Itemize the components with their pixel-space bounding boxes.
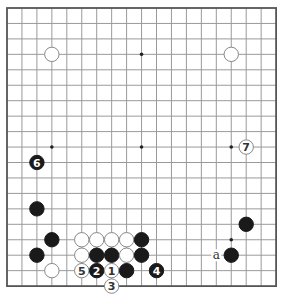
white-stone-icon	[75, 248, 89, 262]
white-stone	[45, 47, 59, 61]
point-mark-label: a	[213, 248, 220, 262]
black-stone-icon	[30, 248, 44, 262]
black-stone-move-4: 4	[149, 263, 163, 277]
move-number-label: 6	[33, 157, 41, 170]
black-stone-icon	[239, 217, 253, 231]
move-number-label: 3	[108, 280, 116, 293]
black-stone-icon	[119, 263, 133, 277]
black-stone	[119, 263, 133, 277]
white-stone-icon	[119, 233, 133, 247]
white-stone	[224, 47, 238, 61]
star-point-icon	[140, 53, 144, 57]
black-stone-icon	[90, 248, 104, 262]
black-stone	[90, 248, 104, 262]
white-stone-icon	[75, 233, 89, 247]
black-stone-icon	[30, 202, 44, 216]
black-stone-move-2: 2	[90, 263, 104, 277]
white-stone-icon	[119, 248, 133, 262]
white-stone	[119, 233, 133, 247]
black-stone-move-6: 6	[30, 155, 44, 169]
white-stone	[75, 233, 89, 247]
black-stone	[224, 248, 238, 262]
star-point-icon	[229, 145, 233, 149]
black-stone	[30, 202, 44, 216]
white-stone-icon	[104, 233, 118, 247]
move-number-label: 2	[93, 265, 101, 278]
star-point-icon	[229, 238, 233, 242]
white-stone-move-1: 1	[104, 263, 118, 277]
move-number-label: 1	[108, 265, 116, 278]
go-board: 6752143 a	[0, 0, 282, 299]
black-stone	[134, 248, 148, 262]
white-stone-move-3: 3	[104, 279, 118, 293]
white-stone-icon	[45, 263, 59, 277]
black-stone-icon	[224, 248, 238, 262]
white-stone-icon	[224, 47, 238, 61]
move-number-label: 7	[242, 141, 250, 154]
white-stone-icon	[90, 233, 104, 247]
board-marks: a	[211, 248, 221, 262]
white-stone-icon	[45, 47, 59, 61]
black-stone	[30, 248, 44, 262]
white-stone-move-7: 7	[239, 140, 253, 154]
white-stone	[90, 233, 104, 247]
move-number-label: 5	[78, 265, 86, 278]
black-stone-icon	[134, 233, 148, 247]
black-stone-icon	[45, 233, 59, 247]
black-stone	[45, 233, 59, 247]
white-stone-move-5: 5	[75, 263, 89, 277]
white-stone	[119, 248, 133, 262]
go-board-diagram: 6752143 a	[0, 0, 282, 299]
black-stone	[239, 217, 253, 231]
move-number-label: 4	[153, 265, 161, 278]
white-stone	[45, 263, 59, 277]
star-point-icon	[140, 145, 144, 149]
white-stone	[75, 248, 89, 262]
star-point-icon	[50, 145, 54, 149]
white-stone	[104, 233, 118, 247]
black-stone	[104, 248, 118, 262]
black-stone-icon	[104, 248, 118, 262]
black-stone-icon	[134, 248, 148, 262]
black-stone	[134, 233, 148, 247]
